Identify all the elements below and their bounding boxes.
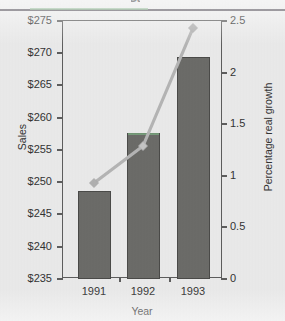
tick-right-0 [221,278,227,280]
x-axis-title: Year [62,305,222,317]
y2tick-label-1: 1 [230,170,236,181]
tick-right-2p5 [221,20,227,22]
clipped-title-descender: Sales and growth [131,0,140,9]
bar-1992 [127,133,160,279]
y2tick-label-1p5: 1.5 [230,118,245,129]
tick-right-0p5 [221,226,227,228]
y2tick-label-0: 0 [230,273,236,284]
xtick-label-1992: 1992 [120,286,166,297]
y2tick-label-2: 2 [230,67,236,78]
ytick-label-265: $265 [0,79,52,90]
ytick-label-275: $275 [0,15,52,26]
tick-left-270 [57,52,63,54]
tick-bottom-sep-1 [119,277,121,282]
y2tick-label-0p5: 0.5 [230,221,245,232]
tick-left-260 [57,117,63,119]
tick-left-250 [57,181,63,183]
ytick-label-250: $250 [0,176,52,187]
y-axis-title: Sales [16,109,28,165]
ytick-label-240: $240 [0,241,52,252]
tick-right-1 [221,175,227,177]
tick-bottom-sep-2 [169,277,171,282]
tick-left-245 [57,213,63,215]
y2tick-label-2p5: 2.5 [230,15,245,26]
tick-right-2 [221,72,227,74]
tick-left-275 [57,20,63,22]
y2-axis-title: Percentage real growth [262,62,274,212]
chart-screenshot: Sales and growth $275 $270 $265 $260 $25… [0,0,285,321]
xtick-label-1993: 1993 [170,286,216,297]
ytick-label-235: $235 [0,273,52,284]
tick-left-265 [57,84,63,86]
bar-1993 [177,57,210,279]
tick-right-1p5 [221,123,227,125]
tick-left-240 [57,246,63,248]
ytick-label-245: $245 [0,208,52,219]
tick-left-255 [57,149,63,151]
tick-left-235 [57,278,63,280]
clipped-title-text: Sales and growth [131,0,140,5]
xtick-label-1991: 1991 [71,286,117,297]
ytick-label-270: $270 [0,47,52,58]
bar-1991 [78,191,111,279]
bar-1992-top-bleed [128,133,159,135]
